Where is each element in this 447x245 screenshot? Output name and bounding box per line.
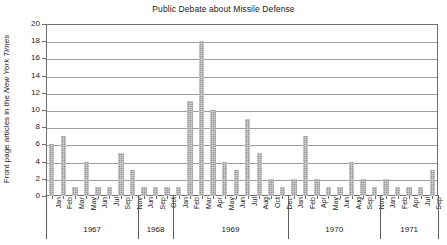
year-group-labels: 19671968196919701971 (46, 225, 438, 241)
bar (199, 41, 204, 196)
x-tick-label: Mar (205, 197, 212, 209)
x-tick-mark (225, 196, 226, 199)
bar (314, 179, 319, 196)
y-tick-label: 10 (14, 106, 40, 114)
chart-title: Public Debate about Missile Defense (0, 4, 447, 14)
x-tick-mark (248, 196, 249, 199)
bar (430, 170, 435, 196)
x-tick-label: Sep (366, 197, 373, 209)
bar (372, 187, 377, 196)
bar (118, 153, 123, 196)
bar (187, 101, 192, 196)
x-tick-mark (86, 196, 87, 199)
x-tick-mark (202, 196, 203, 199)
x-tick-mark (190, 196, 191, 199)
x-tick-label: Feb (309, 197, 316, 209)
bar (95, 187, 100, 196)
year-separator (288, 195, 289, 239)
x-tick-mark (75, 196, 76, 199)
x-tick-label: May (90, 197, 97, 210)
year-separator (46, 195, 47, 239)
bar (107, 187, 112, 196)
x-tick-mark (305, 196, 306, 199)
bar (130, 170, 135, 196)
x-tick-label: Sep (124, 197, 131, 209)
x-tick-mark (271, 196, 272, 199)
bar (291, 179, 296, 196)
y-tick-label: 14 (14, 72, 40, 80)
y-tick-label: 12 (14, 89, 40, 97)
bar (164, 187, 169, 196)
bar (280, 187, 285, 196)
x-tick-mark (328, 196, 329, 199)
x-tick-mark (109, 196, 110, 199)
x-tick-mark (236, 196, 237, 199)
y-axis-title-italic: New York Times (2, 35, 11, 93)
bar (84, 162, 89, 196)
x-tick-label: Feb (193, 197, 200, 209)
x-tick-label: Jun (147, 197, 154, 208)
y-tick-label: 20 (14, 20, 40, 28)
x-tick-mark (432, 196, 433, 199)
x-tick-label: Jan (297, 197, 304, 208)
y-tick-label: 16 (14, 54, 40, 62)
x-tick-mark (52, 196, 53, 199)
x-tick-mark (386, 196, 387, 199)
y-axis-title: Front page articles in the New York Time… (0, 18, 13, 200)
y-tick-label: 2 (14, 175, 40, 183)
x-tick-mark (398, 196, 399, 199)
bar-series (46, 24, 438, 196)
x-tick-label: Aug (262, 197, 269, 209)
x-tick-mark (340, 196, 341, 199)
bar (49, 144, 54, 196)
year-label: 1970 (288, 225, 380, 234)
x-tick-mark (167, 196, 168, 199)
x-tick-label: Apr (412, 197, 419, 208)
bar (406, 187, 411, 196)
y-tick-label: 18 (14, 37, 40, 45)
year-label: 1969 (173, 225, 288, 234)
year-label: 1967 (46, 225, 138, 234)
x-tick-mark (213, 196, 214, 199)
bar (326, 187, 331, 196)
bar (141, 187, 146, 196)
x-tick-label: Jan (389, 197, 396, 208)
x-tick-label: Jul (251, 197, 258, 206)
year-separator (380, 195, 381, 239)
year-separator (438, 195, 439, 239)
x-tick-label: Jan (55, 197, 62, 208)
x-tick-label: Apr (320, 197, 327, 208)
x-tick-label: Jul (113, 197, 120, 206)
bar (245, 119, 250, 196)
x-tick-label: May (332, 197, 339, 210)
y-tick-label: 4 (14, 158, 40, 166)
x-tick-mark (144, 196, 145, 199)
x-tick-label: Jul (424, 197, 431, 206)
bar (383, 179, 388, 196)
x-tick-mark (294, 196, 295, 199)
bar (395, 187, 400, 196)
bar (337, 187, 342, 196)
x-tick-mark (132, 196, 133, 199)
x-tick-mark (121, 196, 122, 199)
bar (418, 187, 423, 196)
year-separator (138, 195, 139, 239)
x-tick-mark (282, 196, 283, 199)
x-tick-label: Jun (101, 197, 108, 208)
year-label: 1968 (138, 225, 173, 234)
year-label: 1971 (380, 225, 438, 234)
x-tick-mark (352, 196, 353, 199)
bar (61, 136, 66, 196)
year-separator (173, 195, 174, 239)
x-tick-label: Aug (355, 197, 362, 209)
bar (72, 187, 77, 196)
x-tick-label: Feb (66, 197, 73, 209)
y-tick-label: 6 (14, 140, 40, 148)
x-tick-label: Mar (78, 197, 85, 209)
x-tick-mark (363, 196, 364, 199)
y-tick-label: 0 (14, 192, 40, 200)
bar (222, 162, 227, 196)
bar (234, 170, 239, 196)
x-tick-label: Apr (216, 197, 223, 208)
x-tick-mark (179, 196, 180, 199)
